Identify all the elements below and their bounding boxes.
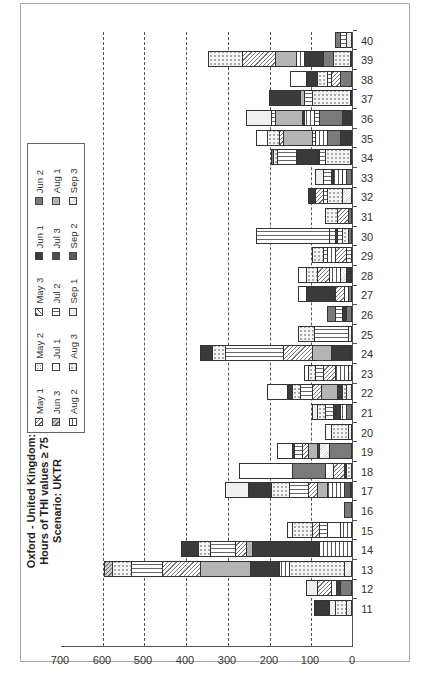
x-tick-label: 22	[357, 387, 377, 399]
bar-segment	[346, 169, 352, 185]
bar-segment	[327, 306, 335, 322]
legend-swatch-icon	[35, 308, 43, 316]
bar-segment	[346, 267, 352, 283]
legend-swatch-icon	[35, 363, 43, 371]
bar-year-32	[308, 188, 352, 204]
bar-segment	[210, 541, 235, 557]
bar-year-35	[256, 130, 352, 146]
x-tick-label: 37	[357, 93, 377, 105]
bar-segment	[344, 502, 352, 518]
bar-segment	[325, 149, 350, 165]
legend-item: May 2	[32, 316, 46, 371]
bar-segment	[294, 443, 302, 459]
bar-segment	[306, 71, 316, 87]
legend-label: Aug 1	[51, 168, 62, 193]
bar-segment	[331, 71, 339, 87]
x-tick-mark	[353, 481, 357, 482]
x-tick-mark	[353, 304, 357, 305]
x-tick-label: 15	[357, 525, 377, 537]
bar-segment	[256, 130, 266, 146]
legend-label: Jul 3	[51, 228, 62, 248]
bar-segment	[335, 247, 345, 263]
y-tick-label: 700	[45, 654, 75, 666]
bar-segment	[314, 600, 329, 616]
bar-segment	[225, 345, 283, 361]
bar-segment	[314, 326, 347, 342]
x-tick-label: 39	[357, 54, 377, 66]
x-tick-mark	[353, 579, 357, 580]
bar-segment	[340, 130, 353, 146]
bar-year-28	[298, 267, 352, 283]
y-tick-label: 300	[212, 654, 242, 666]
bar-segment	[181, 541, 198, 557]
bar-year-33	[315, 169, 352, 185]
legend-item: Aug 3	[66, 316, 80, 371]
bar-segment	[296, 51, 304, 67]
bar-segment	[325, 208, 338, 224]
legend-swatch-icon	[35, 197, 43, 205]
bar-segment	[248, 482, 271, 498]
x-tick-mark	[353, 422, 357, 423]
y-tick-label: 400	[170, 654, 200, 666]
bar-segment	[312, 384, 320, 400]
legend-label: Aug 2	[68, 389, 79, 414]
x-tick-mark	[353, 69, 357, 70]
legend-item: Jun 1	[32, 205, 46, 260]
bar-year-22	[267, 384, 352, 400]
legend-item: Jul 3	[49, 205, 63, 260]
bar-year-17	[225, 482, 352, 498]
bar-year-36	[246, 110, 352, 126]
x-tick-mark	[353, 108, 357, 109]
bar-segment	[283, 345, 312, 361]
bar-segment	[306, 286, 335, 302]
legend-item: Aug 2	[66, 371, 80, 426]
bar-segment	[208, 51, 241, 67]
gridline	[103, 32, 104, 646]
bar-segment	[325, 463, 333, 479]
x-tick-label: 29	[357, 250, 377, 262]
bar-year-24	[200, 345, 352, 361]
bar-year-14	[181, 541, 352, 557]
bar-segment	[317, 482, 327, 498]
bar-segment	[317, 71, 327, 87]
legend-label: Sep 3	[68, 168, 79, 193]
bar-segment	[198, 541, 211, 557]
legend-swatch-icon	[35, 418, 43, 426]
bar-segment	[327, 522, 340, 538]
x-tick-mark	[353, 559, 357, 560]
bar-segment	[298, 267, 306, 283]
bar-year-38	[290, 71, 353, 87]
bar-segment	[292, 463, 325, 479]
legend-label: May 3	[34, 278, 45, 304]
legend-item: May 1	[32, 371, 46, 426]
bar-segment	[335, 286, 343, 302]
x-tick-label: 38	[357, 74, 377, 86]
x-tick-mark	[353, 461, 357, 462]
bar-segment	[325, 404, 333, 420]
chart-frame: Oxford - United Kingdom: Hours of THI va…	[20, 3, 410, 662]
bar-segment	[342, 110, 352, 126]
legend-item: Jun 2	[32, 150, 46, 205]
bar-year-21	[312, 404, 352, 420]
legend-swatch-icon	[52, 252, 60, 260]
x-tick-label: 20	[357, 427, 377, 439]
legend-item: Sep 3	[66, 150, 80, 205]
bar-segment	[346, 404, 352, 420]
bar-segment	[319, 110, 342, 126]
bar-segment	[323, 169, 331, 185]
bar-segment	[300, 384, 313, 400]
bar-segment	[131, 561, 162, 577]
x-tick-label: 19	[357, 446, 377, 458]
bar-segment	[315, 130, 328, 146]
bar-segment	[235, 541, 245, 557]
x-tick-mark	[353, 206, 357, 207]
x-tick-label: 23	[357, 368, 377, 380]
x-tick-mark	[353, 383, 357, 384]
bar-segment	[306, 580, 316, 596]
bar-year-31	[325, 208, 352, 224]
legend-swatch-icon	[52, 418, 60, 426]
bar-segment	[327, 130, 340, 146]
bar-segment	[348, 286, 352, 302]
x-tick-mark	[353, 187, 357, 188]
x-tick-label: 33	[357, 172, 377, 184]
